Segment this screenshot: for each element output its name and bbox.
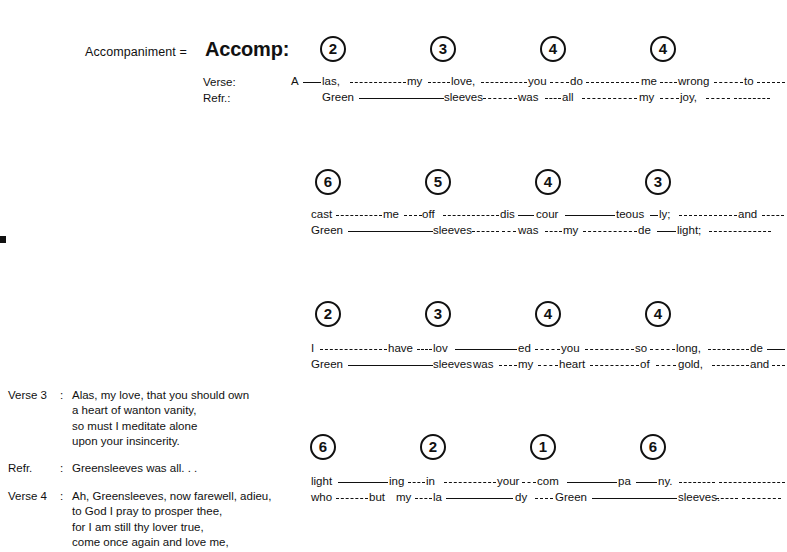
melisma-rule bbox=[567, 482, 617, 483]
melisma-rule bbox=[657, 231, 676, 232]
chord-circle[interactable]: 3 bbox=[430, 36, 456, 62]
verse-entry-colon: : bbox=[60, 388, 63, 403]
melisma-rule bbox=[446, 498, 513, 499]
melisma-rule bbox=[518, 215, 534, 216]
lyric-syllable: com bbox=[537, 474, 559, 488]
extender-dashes bbox=[660, 98, 679, 99]
lyric-syllable: Green bbox=[311, 223, 343, 237]
chord-circle[interactable]: 3 bbox=[425, 301, 451, 327]
music-system-3: 2 3 4 4 I have lov ed you so long, de Gr… bbox=[0, 265, 787, 375]
lyric-syllable: I bbox=[311, 341, 314, 355]
chord-circle[interactable]: 4 bbox=[645, 301, 671, 327]
lyric-syllable: heart bbox=[559, 357, 585, 371]
lyric-syllable: in bbox=[426, 474, 435, 488]
extender-dashes bbox=[522, 482, 536, 483]
verse-entry-label: Verse 4 bbox=[8, 489, 54, 504]
lyric-syllable: la bbox=[433, 490, 442, 504]
extender-dashes bbox=[481, 82, 527, 83]
lyric-syllable: dis bbox=[500, 207, 515, 221]
melisma-rule bbox=[455, 349, 517, 350]
extender-dashes bbox=[472, 231, 499, 232]
chord-circle[interactable]: 4 bbox=[540, 36, 566, 62]
chord-circle[interactable]: 6 bbox=[315, 169, 341, 195]
lyric-syllable: A bbox=[291, 74, 299, 88]
lyric-syllable: wrong bbox=[678, 74, 709, 88]
chord-circle[interactable]: 6 bbox=[310, 434, 336, 460]
lyric-syllable: my bbox=[518, 357, 533, 371]
extender-dashes bbox=[415, 498, 432, 499]
lyric-syllable: pa bbox=[618, 474, 631, 488]
lyric-syllable: gold, bbox=[678, 357, 703, 371]
lyric-syllable: Green bbox=[322, 90, 354, 104]
extender-dashes bbox=[585, 349, 634, 350]
melisma-rule bbox=[359, 98, 444, 99]
system-3-verse-lyrics: I have lov ed you so long, de bbox=[0, 341, 787, 357]
chord-circle[interactable]: 4 bbox=[650, 36, 676, 62]
chord-circle[interactable]: 5 bbox=[425, 169, 451, 195]
chord-circle[interactable]: 6 bbox=[640, 434, 666, 460]
lyric-syllable: ny. bbox=[658, 474, 673, 488]
verse-line: a heart of wanton vanity, bbox=[72, 403, 298, 418]
extender-dashes bbox=[483, 98, 517, 99]
lyric-syllable: of bbox=[640, 357, 650, 371]
refrain-entry-label: Refr. bbox=[8, 461, 54, 476]
lyric-syllable: cour bbox=[536, 207, 558, 221]
lyric-syllable: lov bbox=[433, 341, 448, 355]
melisma-rule bbox=[303, 82, 321, 83]
chord-circle[interactable]: 2 bbox=[420, 434, 446, 460]
extender-dashes bbox=[545, 231, 562, 232]
extender-dashes bbox=[583, 231, 637, 232]
melisma-rule bbox=[338, 482, 388, 483]
lyric-syllable: and bbox=[738, 207, 757, 221]
melisma-rule bbox=[767, 349, 785, 350]
lyric-syllable: who bbox=[311, 490, 332, 504]
extender-dashes bbox=[582, 98, 637, 99]
extender-dashes bbox=[762, 215, 784, 216]
lyric-syllable: but bbox=[369, 490, 385, 504]
verse-line: so must I meditate alone bbox=[72, 419, 298, 434]
chord-circle[interactable]: 2 bbox=[320, 36, 346, 62]
verse-entry-lines: Ah, Greensleeves, now farewell, adieu, t… bbox=[72, 489, 298, 551]
extender-dashes bbox=[444, 482, 496, 483]
verse-entry-colon: : bbox=[60, 489, 63, 504]
chord-circle[interactable]: 3 bbox=[645, 169, 671, 195]
verse-entry: Verse 3 : Alas, my love, that you should… bbox=[8, 388, 298, 450]
lyric-syllable: sleeves bbox=[433, 357, 472, 371]
verse-line: Ah, Greensleeves, now farewell, adieu, bbox=[72, 489, 298, 504]
extender-dashes bbox=[714, 82, 743, 83]
lyric-syllable: las, bbox=[322, 74, 340, 88]
lyric-syllable: and bbox=[750, 357, 769, 371]
chord-circle[interactable]: 1 bbox=[530, 434, 556, 460]
system-1-chord-row: 2 3 4 4 bbox=[0, 36, 787, 66]
system-2-chord-row: 6 5 4 3 bbox=[0, 169, 787, 199]
lyric-syllable: joy, bbox=[680, 90, 697, 104]
refrain-entry: Refr. : Greensleeves was all. . . bbox=[8, 461, 298, 476]
extender-dashes bbox=[712, 365, 749, 366]
extender-dashes bbox=[417, 349, 432, 350]
extender-dashes bbox=[499, 365, 517, 366]
extender-dashes bbox=[660, 82, 677, 83]
lyric-syllable: sleeves bbox=[433, 223, 472, 237]
extender-dashes bbox=[350, 82, 406, 83]
refrain-entry-colon: : bbox=[60, 461, 63, 476]
extender-dashes bbox=[679, 482, 715, 483]
refrain-entry-lines: Greensleeves was all. . . bbox=[72, 461, 298, 476]
lyric-syllable: you bbox=[561, 341, 580, 355]
extender-dashes bbox=[656, 365, 676, 366]
lyric-syllable: de bbox=[750, 341, 763, 355]
chord-circle[interactable]: 4 bbox=[535, 301, 561, 327]
lyric-syllable: all bbox=[562, 90, 574, 104]
lyric-syllable: to bbox=[744, 74, 754, 88]
chord-circle[interactable]: 2 bbox=[315, 301, 341, 327]
lyric-syllable: my bbox=[407, 74, 422, 88]
lyric-syllable: cast bbox=[311, 207, 332, 221]
extender-dashes bbox=[538, 365, 558, 366]
extender-dashes bbox=[716, 498, 738, 499]
lyric-syllable: sleeves. bbox=[678, 490, 720, 504]
lyric-syllable: my bbox=[563, 223, 578, 237]
lyric-syllable: do bbox=[570, 74, 583, 88]
melisma-rule bbox=[565, 215, 615, 216]
extender-dashes bbox=[550, 82, 569, 83]
lyric-syllable: was bbox=[518, 90, 538, 104]
chord-circle[interactable]: 4 bbox=[535, 169, 561, 195]
